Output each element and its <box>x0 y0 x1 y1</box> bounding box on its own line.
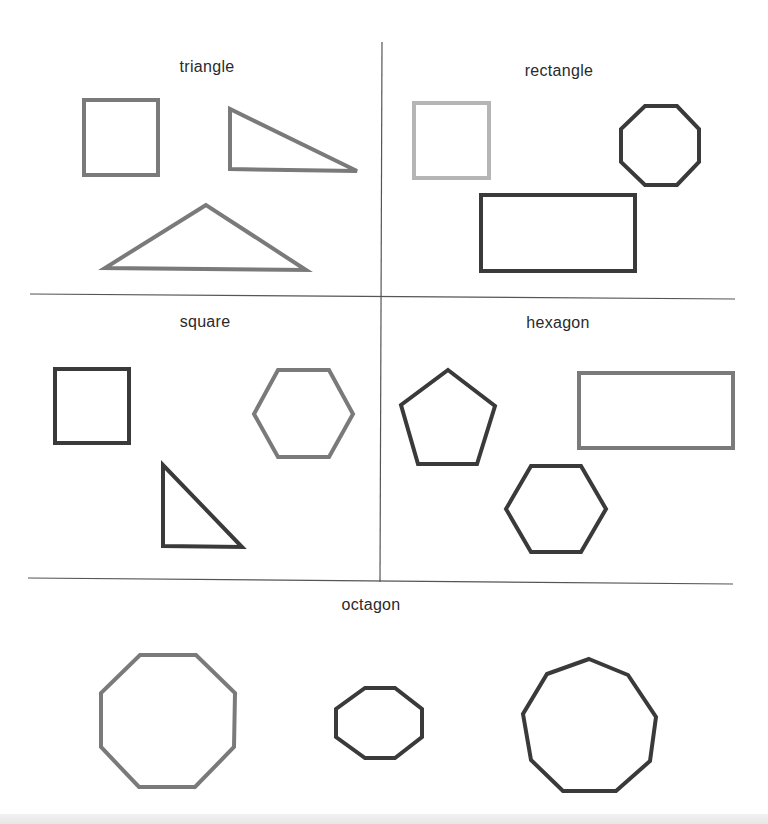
panel-triangle <box>84 100 357 270</box>
octagon-shape[interactable] <box>621 106 699 185</box>
right-triangle-shape[interactable] <box>230 109 357 171</box>
square-shape[interactable] <box>414 103 489 178</box>
panel-hexagon <box>401 370 733 552</box>
panel-label-square: square <box>180 313 231 331</box>
octagon-shape[interactable] <box>101 655 235 787</box>
panel-square <box>55 369 353 547</box>
pentagon-shape[interactable] <box>401 370 495 464</box>
obtuse-triangle-shape[interactable] <box>105 205 306 270</box>
bottom-edge-strip <box>0 814 768 824</box>
horizontal-divider-top <box>30 294 735 299</box>
nonagon-shape[interactable] <box>523 659 656 791</box>
panel-label-octagon: octagon <box>341 596 400 614</box>
hexagon-shape[interactable] <box>506 466 606 552</box>
octagon-shape-small[interactable] <box>336 688 422 758</box>
right-triangle-shape[interactable] <box>163 465 242 547</box>
panel-octagon <box>101 655 656 791</box>
square-shape[interactable] <box>55 369 129 443</box>
vertical-divider <box>380 42 382 582</box>
shape-worksheet <box>0 0 768 824</box>
panel-label-hexagon: hexagon <box>526 314 590 332</box>
panel-label-triangle: triangle <box>180 58 235 76</box>
hexagon-shape[interactable] <box>254 370 353 457</box>
panel-label-rectangle: rectangle <box>525 62 594 80</box>
rectangle-shape[interactable] <box>579 373 733 448</box>
rectangle-shape[interactable] <box>481 195 635 271</box>
panel-rectangle <box>414 103 699 271</box>
square-shape[interactable] <box>84 100 158 175</box>
